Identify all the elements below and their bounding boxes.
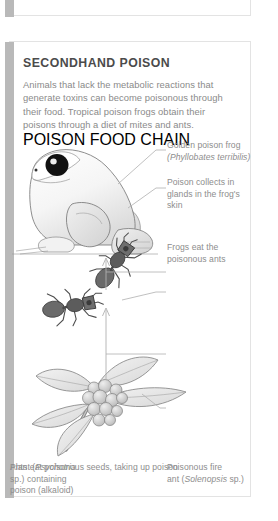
poison-food-chain-figure: Golden poison frog (Phyllobates terribil…: [10, 132, 252, 462]
plant-line-3: poison (alkaloid): [10, 485, 73, 495]
plant-name: Plant (Psychotria: [10, 462, 76, 472]
label-poison-glands: Poison collects in glands in the frog's …: [167, 177, 241, 212]
page-title: SECONDHAND POISON: [23, 56, 237, 71]
frog-scientific-name: (Phyllobates terribilis): [167, 152, 250, 162]
ant-scientific-name: ant (Solenopsis sp.): [167, 474, 244, 484]
label-frogs-eat-ants: Frogs eat the poisonous ants: [167, 242, 241, 265]
plant-line-2: sp.) containing: [10, 474, 67, 484]
label-plant: Plant (Psychotria sp.) containing poison…: [10, 462, 76, 497]
label-golden-poison-frog: Golden poison frog (Phyllobates terribil…: [167, 140, 251, 163]
card-content: SECONDHAND POISON Animals that lack the …: [10, 42, 250, 496]
intro-paragraph: Animals that lack the metabolic reaction…: [23, 78, 237, 132]
frog-common-name: Golden poison frog: [167, 140, 241, 150]
ant-genus: Solenopsis: [184, 474, 227, 484]
accent-bar: [5, 0, 14, 17]
infographic-page: SECONDHAND POISON Animals that lack the …: [0, 0, 278, 521]
psychotria-plant-illustration: [32, 357, 186, 456]
ant-left: [40, 284, 106, 329]
secondhand-poison-card: SECONDHAND POISON Animals that lack the …: [9, 41, 251, 497]
plant-genus: Psychotria: [35, 462, 76, 472]
previous-card-clipped: [9, 0, 251, 16]
label-fire-ant: Poisonous fire ant (Solenopsis sp.): [167, 462, 244, 485]
